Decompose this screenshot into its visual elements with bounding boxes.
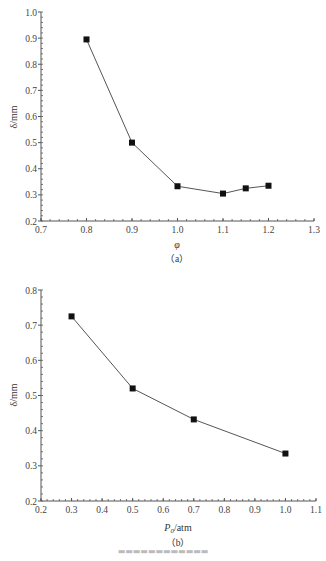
y-tick-label: 0.7 (25, 86, 37, 96)
y-tick-label: 0.3 (25, 461, 37, 471)
x-tick-label: 0.5 (127, 505, 139, 515)
x-tick-label: 0.7 (188, 505, 200, 515)
x-tick-label: 1.2 (263, 225, 275, 235)
chart-b-axes: 0.20.30.40.50.60.70.80.20.30.40.50.60.70… (25, 286, 322, 516)
chart-a: 0.20.30.40.50.60.70.80.91.00.70.80.91.01… (0, 0, 326, 280)
figure-caption: ▬▬▬▬▬▬▬▬▬▬▬▬ (0, 547, 326, 556)
chart-b-x-axis-label: P0/atm (163, 522, 192, 535)
data-point-marker (191, 416, 197, 422)
x-tick-label: 1.1 (310, 505, 322, 515)
x-tick-label: 1.0 (280, 505, 292, 515)
x-tick-label: 0.7 (35, 225, 47, 235)
x-label-main: P (163, 522, 170, 533)
data-point-marker (243, 185, 249, 191)
chart-a-series (84, 36, 272, 196)
series-line (72, 316, 286, 453)
x-tick-label: 1.3 (308, 225, 320, 235)
chart-a-axes: 0.20.30.40.50.60.70.80.91.00.70.80.91.01… (25, 8, 320, 236)
x-tick-label: 1.1 (217, 225, 229, 235)
y-tick-label: 0.5 (25, 391, 37, 401)
data-point-marker (282, 451, 288, 457)
chart-b-series (69, 313, 289, 456)
data-point-marker (84, 36, 90, 42)
data-point-marker (220, 191, 226, 197)
x-tick-label: 0.6 (157, 505, 169, 515)
chart-b-y-axis-label: δ/mm (8, 383, 19, 406)
y-tick-label: 0.8 (25, 60, 37, 70)
chart-a-panel-label: （a） (165, 253, 189, 264)
x-tick-label: 1.0 (172, 225, 184, 235)
x-tick-label: 0.4 (96, 505, 108, 515)
data-point-marker (266, 183, 272, 189)
x-label-unit: /atm (174, 522, 192, 533)
chart-a-x-axis-label: φ (174, 239, 180, 250)
y-tick-label: 0.6 (25, 112, 37, 122)
x-tick-label: 0.9 (249, 505, 261, 515)
data-point-marker (175, 183, 181, 189)
x-tick-label: 0.8 (218, 505, 230, 515)
data-point-marker (130, 385, 136, 391)
y-tick-label: 0.7 (25, 321, 37, 331)
chart-a-y-axis-label: δ/mm (8, 105, 19, 128)
series-line (87, 39, 269, 193)
y-tick-label: 0.4 (25, 164, 37, 174)
x-tick-label: 0.8 (81, 225, 93, 235)
y-tick-label: 0.9 (25, 34, 37, 44)
chart-b: 0.20.30.40.50.60.70.80.20.30.40.50.60.70… (0, 280, 326, 561)
y-tick-label: 0.8 (25, 286, 37, 296)
x-tick-label: 0.9 (126, 225, 138, 235)
y-tick-label: 1.0 (25, 8, 37, 18)
data-point-marker (69, 313, 75, 319)
y-tick-label: 0.4 (25, 426, 37, 436)
data-point-marker (129, 140, 135, 146)
y-tick-label: 0.3 (25, 190, 37, 200)
x-tick-label: 0.2 (35, 505, 47, 515)
x-tick-label: 0.3 (66, 505, 78, 515)
y-tick-label: 0.5 (25, 138, 37, 148)
y-tick-label: 0.6 (25, 356, 37, 366)
